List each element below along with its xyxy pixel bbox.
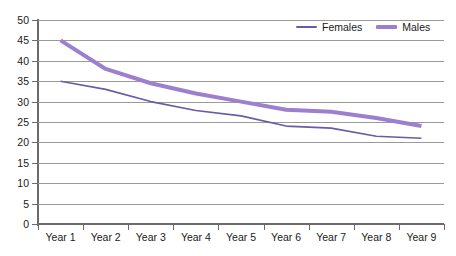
x-axis-label: Year 2 [83,232,128,243]
x-axis-tick [83,224,84,230]
y-axis-label: 30 [0,97,29,108]
x-axis-tick [354,224,355,230]
x-axis-label: Year 8 [354,232,399,243]
x-axis-label: Year 3 [128,232,173,243]
x-axis-tick [444,224,445,230]
line-chart: 05101520253035404550 Year 1Year 2Year 3Y… [0,0,456,256]
gridline [38,183,444,184]
y-axis-label: 20 [0,137,29,148]
legend-item-males[interactable]: Males [376,22,430,33]
x-axis-label: Year 5 [218,232,263,243]
y-axis-label: 35 [0,76,29,87]
x-axis-tick [399,224,400,230]
x-axis-tick [173,224,174,230]
gridline [38,204,444,205]
gridline [38,40,444,41]
x-axis-label: Year 1 [38,232,83,243]
x-axis-label: Year 4 [173,232,218,243]
x-axis-tick [128,224,129,230]
y-axis-label: 10 [0,178,29,189]
legend-label-males: Males [402,22,430,33]
legend-swatch-females-icon [296,26,317,28]
y-axis-label: 45 [0,35,29,46]
y-axis-label: 15 [0,158,29,169]
legend-swatch-males-icon [376,25,397,29]
gridline [38,81,444,82]
legend-item-females[interactable]: Females [296,22,362,33]
x-axis-tick [264,224,265,230]
x-axis-tick [38,224,39,230]
x-axis-label: Year 9 [399,232,444,243]
y-axis-label: 5 [0,199,29,210]
x-axis-label: Year 7 [309,232,354,243]
legend-label-females: Females [322,22,362,33]
gridline [38,142,444,143]
chart-legend: Females Males [296,22,430,33]
y-axis-label: 25 [0,117,29,128]
x-axis-label: Year 6 [264,232,309,243]
y-axis-label: 40 [0,56,29,67]
y-axis-label: 0 [0,219,29,230]
gridline [38,61,444,62]
x-axis-baseline [38,223,444,225]
gridline [38,122,444,123]
gridline [38,102,444,103]
x-axis-tick [309,224,310,230]
y-axis-label: 50 [0,15,29,26]
x-axis-tick [218,224,219,230]
plot-area [38,20,444,224]
gridline [38,163,444,164]
gridline [38,20,444,21]
